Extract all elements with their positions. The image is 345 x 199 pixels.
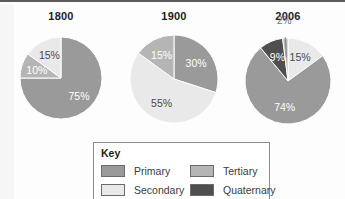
pie-chart-2006: 2006 15%74%9%2%: [232, 4, 344, 136]
legend-item-secondary: Secondary: [101, 183, 184, 197]
chart-title-2006: 2006: [232, 10, 344, 22]
legend-swatch-quaternary: [190, 184, 214, 196]
legend-swatch-tertiary: [190, 165, 214, 177]
legend-label-tertiary: Tertiary: [223, 165, 257, 177]
legend-swatch-primary: [101, 165, 125, 177]
legend-key-box: Key Primary Secondary Tertiary Quaternar…: [93, 142, 270, 199]
charts-row: 1800 75%10%15% 1900 30%55%15% 2006 15%74…: [0, 4, 345, 136]
legend-label-primary: Primary: [134, 165, 170, 177]
legend-item-tertiary: Tertiary: [190, 164, 257, 178]
legend-item-primary: Primary: [101, 164, 170, 178]
pie-canvas-2006: 15%74%9%2%: [244, 37, 332, 125]
pie-svg: [19, 36, 103, 120]
legend-swatch-secondary: [101, 184, 125, 196]
legend-label-quaternary: Quaternary: [223, 184, 276, 196]
chart-title-1900: 1900: [118, 10, 230, 22]
legend-item-quaternary: Quaternary: [190, 183, 276, 197]
pie-canvas-1800: 75%10%15%: [19, 36, 103, 120]
legend-label-secondary: Secondary: [134, 184, 184, 196]
pie-canvas-1900: 30%55%15%: [129, 34, 219, 124]
legend-title: Key: [101, 147, 120, 159]
pie-svg: [129, 34, 219, 124]
chart-title-1800: 1800: [5, 10, 117, 22]
pie-chart-1800: 1800 75%10%15%: [5, 4, 117, 136]
pie-svg: [244, 37, 332, 125]
pie-chart-1900: 1900 30%55%15%: [118, 4, 230, 136]
pie-chart-figure: 1800 75%10%15% 1900 30%55%15% 2006 15%74…: [0, 0, 345, 199]
